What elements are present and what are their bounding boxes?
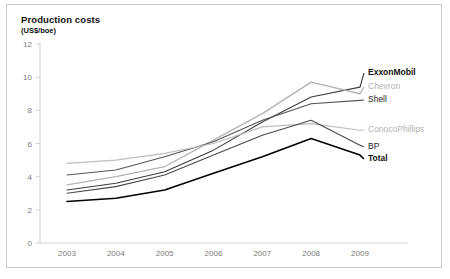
x-axis-tick-label: 2003 [58,249,76,258]
series-line-exxonmobil [67,87,360,190]
y-axis-tick-label: 8 [28,106,33,115]
x-axis-tick-label: 2009 [351,249,369,258]
series-line-bp [67,120,360,193]
x-axis-tick-label: 2006 [205,249,223,258]
chart-plot-area: 0246810122003200420052006200720082009Exx… [0,0,450,279]
series-line-chevron [67,82,360,185]
x-axis-tick-label: 2008 [302,249,320,258]
legend-label-shell: Shell [368,94,387,104]
x-axis-tick-label: 2007 [253,249,271,258]
series-line-conocophillips [67,124,360,164]
series-line-shell [67,100,360,175]
y-axis-tick-label: 6 [28,140,33,149]
y-axis-tick-label: 12 [23,40,32,49]
legend-label-conocophillips: ConocoPhillips [368,124,424,134]
y-axis-tick-label: 4 [28,173,33,182]
x-axis-tick-label: 2005 [156,249,174,258]
y-axis-tick-label: 10 [23,73,32,82]
y-axis-tick-label: 2 [28,206,33,215]
x-axis-tick-label: 2004 [107,249,125,258]
line-chart-svg: 0246810122003200420052006200720082009Exx… [0,0,450,279]
y-axis-tick-label: 0 [28,239,33,248]
legend-label-exxonmobil: ExxonMobil [368,67,416,77]
legend-label-total: Total [368,153,388,163]
legend-label-bp: BP [368,141,380,151]
legend-label-chevron: Chevron [368,81,400,91]
